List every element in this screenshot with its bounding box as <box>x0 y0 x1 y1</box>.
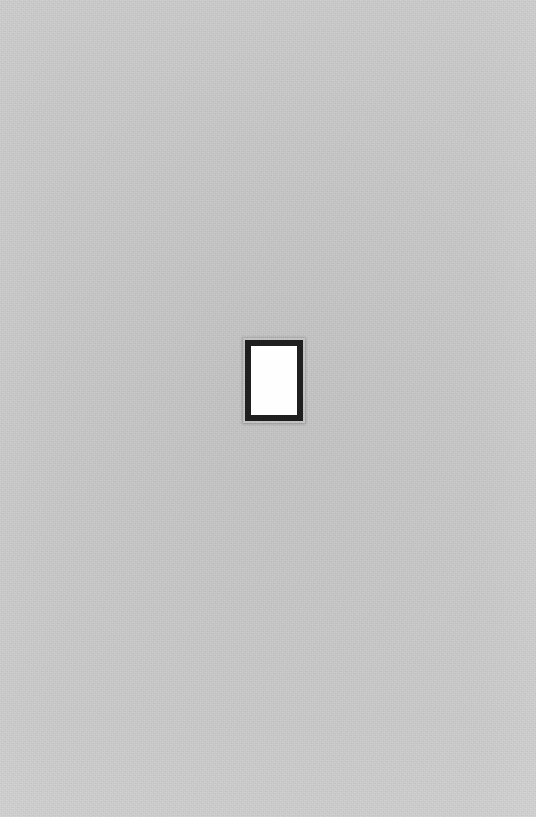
page-canvas <box>0 0 536 817</box>
missing-glyph-box-fill <box>251 346 297 415</box>
missing-glyph-box-icon <box>245 340 303 421</box>
